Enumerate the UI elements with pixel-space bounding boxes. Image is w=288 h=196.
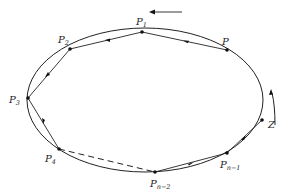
chord-P-P1 — [142, 32, 227, 50]
chord-Pn-2-Pn-1 — [155, 153, 227, 172]
point-P — [225, 48, 229, 52]
ellipse-chord-diagram: P P1 P2 P3 P4 Pn−2 Pn−1 Z — [0, 0, 288, 196]
label-P4: P4 — [44, 153, 56, 166]
chord-Pn-1-Z — [227, 120, 262, 153]
label-P: P — [221, 36, 229, 47]
label-P1: P1 — [135, 16, 147, 29]
point-Z — [260, 118, 264, 122]
chord-P2-P3 — [28, 49, 70, 98]
point-Pn-2 — [153, 170, 157, 174]
label-Pn-2: Pn−2 — [149, 178, 171, 191]
label-Pn-1: Pn−1 — [219, 159, 241, 172]
chord-P1-P2 — [70, 32, 142, 49]
point-P3 — [26, 96, 30, 100]
direction-arrow-top — [149, 10, 182, 15]
point-P1 — [140, 30, 144, 34]
label-P2: P2 — [57, 34, 69, 47]
point-P4 — [57, 147, 61, 151]
point-P2 — [68, 47, 72, 51]
label-P3: P3 — [8, 94, 20, 107]
chord-P3-P4 — [28, 98, 59, 149]
point-Pn-1 — [225, 151, 229, 155]
